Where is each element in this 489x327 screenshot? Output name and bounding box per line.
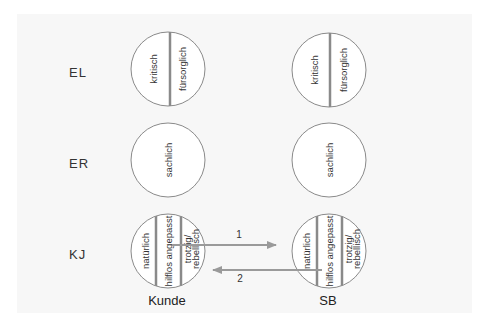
kunde-kj-natuerlich: natürlich (140, 233, 151, 269)
row-label-el: EL (69, 65, 87, 80)
sb-el-fuersorglich: fürsorglich (338, 48, 349, 92)
transaction-diagram: EL ER KJ kritisch fürsorglich sachlich n… (0, 0, 489, 327)
sb-er-circle: sachlich (292, 123, 366, 197)
kunde-kj-circle: natürlich hilflos angepasst trotzig/ reb… (131, 214, 205, 288)
column-label-kunde: Kunde (148, 293, 186, 308)
arrow-2-label: 2 (237, 273, 243, 284)
sb-er-sachlich: sachlich (324, 143, 335, 177)
kunde-el-kritisch: kritisch (148, 54, 159, 84)
sb-kj-hilflos-angepasst: hilflos angepasst (324, 215, 335, 286)
kunde-er-circle: sachlich (131, 123, 205, 197)
arrow-1-label: 1 (236, 229, 242, 240)
kunde-el-circle: kritisch fürsorglich (131, 32, 205, 106)
kunde-kj-hilflos-angepasst: hilflos angepasst (163, 215, 174, 286)
sb-kj-rebellisch: rebellisch (351, 229, 362, 269)
row-label-er: ER (69, 156, 89, 171)
kunde-er-sachlich: sachlich (163, 143, 174, 177)
kunde-kj-rebellisch: rebellisch (190, 229, 201, 269)
sb-el-circle: kritisch fürsorglich (292, 33, 366, 107)
sb-el-kritisch: kritisch (309, 55, 320, 85)
sb-kj-circle: natürlich hilflos angepasst trotzig/ reb… (292, 214, 366, 288)
column-label-sb: SB (319, 293, 336, 308)
sb-kj-natuerlich: natürlich (301, 233, 312, 269)
row-label-kj: KJ (69, 247, 86, 262)
kunde-el-fuersorglich: fürsorglich (177, 47, 188, 91)
